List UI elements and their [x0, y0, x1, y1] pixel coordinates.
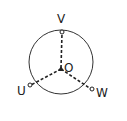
- label-w: W: [96, 86, 108, 100]
- node-u: [28, 83, 32, 87]
- node-v: [60, 30, 64, 34]
- edge-o-u: [31, 69, 61, 85]
- label-o: O: [64, 61, 73, 75]
- node-w: [90, 87, 94, 91]
- edge-o-v: [61, 33, 62, 68]
- star-connection-diagram: V U W O: [0, 0, 127, 121]
- label-v: V: [57, 12, 66, 26]
- label-u: U: [17, 84, 26, 98]
